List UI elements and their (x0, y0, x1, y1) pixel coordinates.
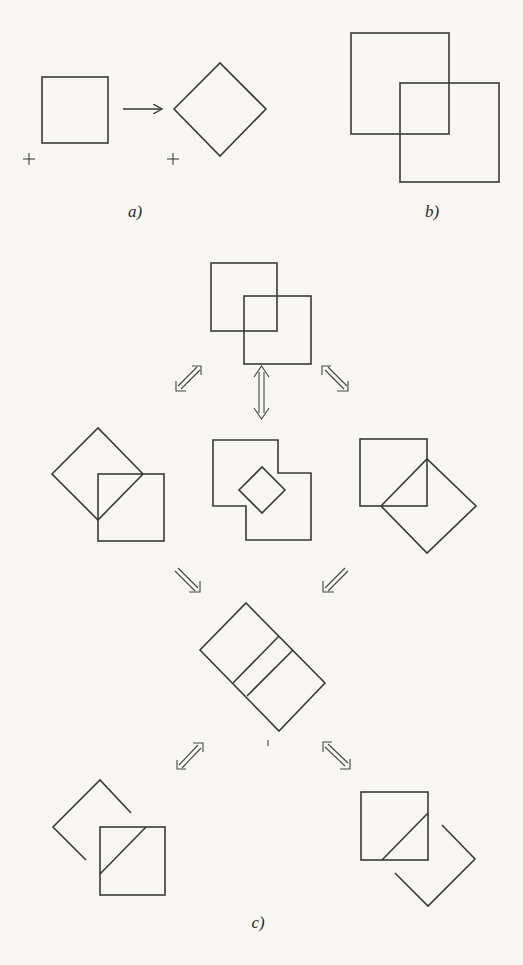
rotated-square (174, 63, 266, 156)
original-square (42, 77, 108, 143)
config-bottom-left (53, 780, 165, 895)
config-top (211, 263, 311, 364)
double-arrow-icon (322, 366, 348, 391)
config-center (200, 603, 325, 746)
double-arrow-icon (323, 742, 350, 769)
panel-c-label: c) (251, 913, 264, 933)
diagram-canvas (0, 0, 523, 965)
config-middle-left (52, 428, 164, 541)
config-middle-center (213, 440, 311, 540)
double-arrow-icon (176, 366, 201, 391)
pivot-marker-icon (167, 153, 179, 165)
panel-b-label: b) (425, 202, 439, 222)
panel-b (351, 33, 499, 182)
config-bottom-right (361, 792, 475, 906)
arrow-down-left-icon (323, 568, 348, 592)
panel-c (52, 263, 476, 906)
panel-a-label: a) (128, 202, 142, 222)
double-arrow-icon (254, 366, 269, 419)
arrow-down-right-icon (175, 568, 200, 592)
panel-a (23, 63, 266, 165)
double-arrow-icon (177, 743, 203, 769)
pivot-marker-icon (23, 153, 35, 165)
config-middle-right (360, 439, 476, 553)
